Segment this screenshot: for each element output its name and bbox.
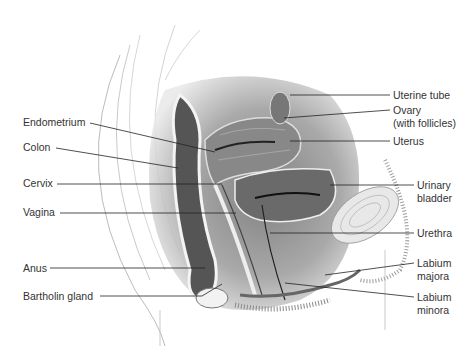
label-ovary-line2: (with follicles) <box>393 117 456 130</box>
anatomy-diagram: Endometrium Colon Cervix Vagina Anus Bar… <box>0 0 476 346</box>
label-labium-majora: Labium majora <box>417 257 451 283</box>
label-uterus: Uterus <box>393 135 424 148</box>
label-majora-line2: majora <box>417 270 451 283</box>
label-anus: Anus <box>23 262 47 275</box>
label-urethra: Urethra <box>417 227 452 240</box>
label-minora-line1: Labium <box>417 291 451 304</box>
label-minora-line2: minora <box>417 304 451 317</box>
label-urinary-bladder: Urinary bladder <box>417 179 452 205</box>
label-ovary-line1: Ovary <box>393 104 456 117</box>
label-cervix: Cervix <box>23 177 53 190</box>
label-uterine-tube: Uterine tube <box>393 89 450 102</box>
label-labium-minora: Labium minora <box>417 291 451 317</box>
label-colon: Colon <box>23 141 50 154</box>
label-bartholin-gland: Bartholin gland <box>23 290 93 303</box>
label-bladder-line2: bladder <box>417 192 452 205</box>
label-vagina: Vagina <box>23 206 55 219</box>
label-endometrium: Endometrium <box>23 116 85 129</box>
label-bladder-line1: Urinary <box>417 179 452 192</box>
label-ovary: Ovary (with follicles) <box>393 104 456 130</box>
label-majora-line1: Labium <box>417 257 451 270</box>
